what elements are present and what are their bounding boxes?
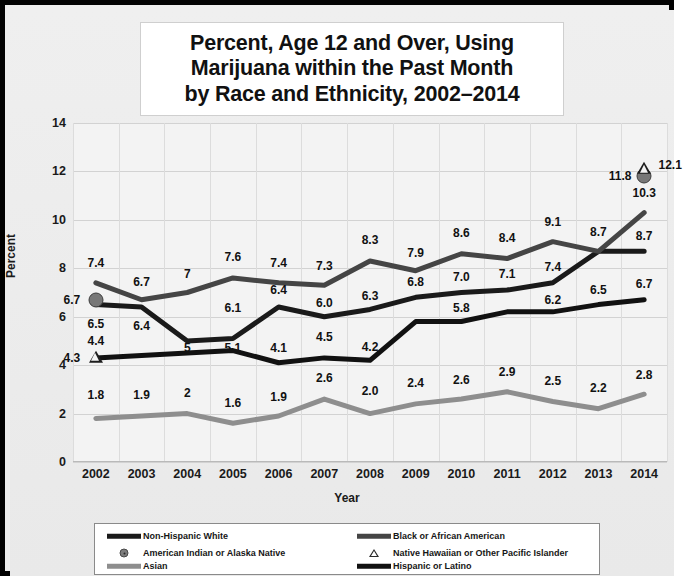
data-point-label: 5.1 — [225, 341, 242, 355]
data-point-label: 7.6 — [225, 250, 242, 264]
chart-canvas: Percent 02468101214 7.46.777.67.47.38.37… — [10, 10, 674, 576]
data-point-label: 4.1 — [270, 341, 287, 355]
x-tick-label: 2003 — [128, 467, 156, 481]
y-tick-label: 2 — [32, 407, 66, 421]
x-tick-label: 2011 — [494, 467, 521, 481]
data-point-label: 6.3 — [362, 289, 379, 303]
legend-item[interactable]: Non-Hispanic White — [107, 528, 228, 544]
data-point-label: 6.2 — [544, 293, 561, 307]
data-point-label: 4.2 — [362, 340, 379, 354]
triangle-marker-icon — [369, 549, 379, 557]
marker-circle-point — [88, 292, 103, 307]
y-tick-label: 0 — [32, 455, 66, 469]
data-point-label: 7 — [184, 267, 191, 281]
data-point-label: 8.4 — [499, 231, 516, 245]
data-point-label: 2.5 — [544, 374, 561, 388]
legend-label: Hispanic or Latino — [391, 561, 472, 571]
data-point-label: 4.4 — [88, 334, 105, 348]
y-axis-ticks: 02468101214 — [26, 123, 66, 462]
x-tick-label: 2014 — [630, 467, 658, 481]
chart-title-box: Percent, Age 12 and Over, UsingMarijuana… — [140, 22, 564, 116]
data-point-label: 9.1 — [544, 215, 561, 229]
data-point-label: 7.0 — [453, 270, 470, 284]
x-axis-title: Year — [10, 491, 684, 505]
data-point-label: 2.9 — [499, 365, 516, 379]
data-point-label: 2.2 — [590, 381, 607, 395]
y-tick-label: 8 — [32, 261, 66, 275]
data-point-label: 1.8 — [88, 388, 105, 402]
data-point-label: 6.1 — [225, 301, 242, 315]
data-point-label: 1.9 — [270, 390, 287, 404]
x-tick-label: 2013 — [585, 467, 613, 481]
circle-marker-icon — [120, 549, 129, 558]
series-line — [96, 213, 644, 300]
data-point-label: 7.1 — [499, 267, 516, 281]
data-point-label: 6.0 — [316, 296, 333, 310]
x-tick-label: 2005 — [219, 467, 247, 481]
legend-item[interactable]: Black or African American — [357, 528, 505, 544]
data-point-label: 6.8 — [407, 275, 424, 289]
legend-line-icon — [107, 564, 141, 569]
y-tick-label: 4 — [32, 358, 66, 372]
data-point-label: 11.8 — [609, 169, 632, 183]
chart-title: Percent, Age 12 and Over, UsingMarijuana… — [179, 31, 526, 106]
legend-line-icon — [357, 534, 391, 539]
legend-label: Black or African American — [391, 531, 505, 541]
x-tick-label: 2002 — [82, 467, 110, 481]
data-point-label: 2.4 — [407, 376, 424, 390]
x-tick-label: 2010 — [447, 467, 475, 481]
data-point-label: 5 — [184, 341, 191, 355]
legend-line-swatch — [357, 558, 391, 574]
data-point-label: 6.5 — [88, 317, 105, 331]
legend-line-swatch — [357, 528, 391, 544]
x-tick-label: 2009 — [402, 467, 430, 481]
legend-line-icon — [107, 534, 141, 539]
data-point-label: 2.0 — [362, 384, 379, 398]
gridline-horizontal — [73, 462, 667, 463]
data-point-label: 6.4 — [270, 283, 287, 297]
data-point-label: 2 — [184, 386, 191, 400]
y-tick-label: 6 — [32, 310, 66, 324]
legend-label: American Indian or Alaska Native — [141, 548, 285, 558]
data-point-label: 6.7 — [636, 277, 653, 291]
data-point-label: 2.6 — [453, 373, 470, 387]
data-point-label: 2.8 — [636, 368, 653, 382]
x-tick-label: 2004 — [173, 467, 201, 481]
data-point-label: 7.4 — [88, 256, 105, 270]
data-point-label: 8.7 — [590, 225, 607, 239]
data-point-label: 2.6 — [316, 371, 333, 385]
y-tick-label: 10 — [32, 213, 66, 227]
data-point-label: 1.9 — [133, 388, 150, 402]
legend-item[interactable]: Asian — [107, 558, 168, 574]
data-point-label: 7.4 — [544, 260, 561, 274]
data-point-label: 4.3 — [64, 351, 81, 365]
data-point-label: 7.4 — [270, 256, 287, 270]
data-point-label: 7.3 — [316, 259, 333, 273]
data-point-label: 6.5 — [590, 283, 607, 297]
legend-line-swatch — [107, 558, 141, 574]
legend-item[interactable]: Hispanic or Latino — [357, 558, 472, 574]
data-point-label: 6.7 — [133, 275, 150, 289]
gridline-vertical — [667, 123, 668, 462]
data-point-label: 8.6 — [453, 226, 470, 240]
x-tick-label: 2012 — [539, 467, 567, 481]
legend-line-icon — [357, 564, 391, 569]
x-tick-label: 2008 — [356, 467, 384, 481]
data-point-label: 4.5 — [316, 330, 333, 344]
legend-label: Non-Hispanic White — [141, 531, 228, 541]
data-point-label: 1.6 — [225, 396, 242, 410]
marker-triangle-point — [89, 351, 103, 363]
chart-legend: Non-Hispanic WhiteBlack or African Ameri… — [94, 523, 600, 575]
legend-line-swatch — [107, 528, 141, 544]
data-point-label: 8.7 — [636, 229, 653, 243]
legend-label: Native Hawaiian or Other Pacific Islande… — [391, 548, 568, 558]
data-point-label: 6.4 — [133, 319, 150, 333]
legend-label: Asian — [141, 561, 168, 571]
x-tick-label: 2006 — [265, 467, 293, 481]
y-tick-label: 14 — [32, 116, 66, 130]
data-point-label: 10.3 — [632, 186, 655, 200]
y-axis-title: Percent — [4, 234, 18, 278]
data-point-label: 12.1 — [658, 158, 681, 172]
data-point-label: 7.9 — [407, 246, 424, 260]
marker-triangle-point — [637, 162, 651, 174]
